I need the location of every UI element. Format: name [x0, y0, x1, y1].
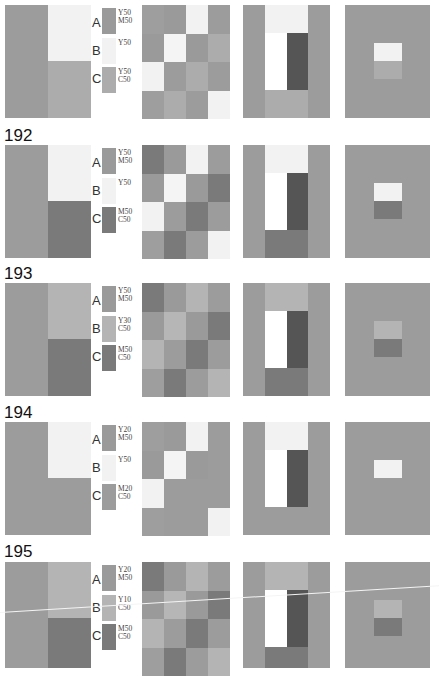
u-top	[265, 145, 308, 173]
panel-number: 193	[4, 265, 32, 282]
checker-cell	[164, 91, 186, 120]
u-dark-column	[287, 590, 308, 647]
center-square-panel	[345, 5, 430, 118]
checker-cell	[142, 5, 164, 34]
left-block-top-right	[48, 5, 91, 61]
color-swatch	[102, 67, 116, 93]
color-swatch	[102, 8, 116, 34]
swatch-letter: B	[92, 600, 101, 615]
swatch-label: Y50	[118, 39, 131, 47]
swatch-letter: A	[92, 572, 101, 587]
checker-cell	[164, 369, 186, 398]
checker-cell	[186, 422, 208, 451]
center-top-square	[374, 321, 402, 339]
checker-cell	[208, 5, 230, 34]
swatch-letter: A	[92, 432, 101, 447]
color-swatch	[102, 624, 116, 650]
center-top-square	[374, 600, 402, 618]
swatch-letter: C	[92, 211, 101, 226]
color-swatch	[102, 484, 116, 510]
checker-cell	[208, 174, 230, 203]
center-square-panel	[345, 562, 430, 668]
checker-cell	[186, 91, 208, 120]
left-block-top-right	[48, 145, 91, 201]
checker-cell	[208, 648, 230, 676]
checker-cell	[142, 62, 164, 91]
u-bottom	[265, 368, 308, 396]
left-block-bottom-right	[48, 618, 91, 668]
left-block-bottom-right	[48, 61, 91, 118]
swatch-label: Y50 M50	[118, 9, 132, 25]
left-block	[5, 5, 91, 118]
checker-cell	[164, 174, 186, 203]
swatch-label: Y50 M50	[118, 287, 132, 303]
color-swatch	[102, 595, 116, 621]
checker-cell	[164, 422, 186, 451]
swatch-letter: B	[92, 460, 101, 475]
color-swatch	[102, 286, 116, 312]
checker-cell	[208, 451, 230, 480]
center-top-square	[374, 43, 402, 61]
u-white-column	[265, 450, 287, 507]
swatch-letter: B	[92, 183, 101, 198]
checker-grid	[142, 422, 230, 535]
checker-cell	[186, 174, 208, 203]
swatch-label: M50 C50	[118, 208, 132, 224]
checker-cell	[186, 283, 208, 312]
color-swatch	[102, 207, 116, 233]
checker-cell	[164, 479, 186, 508]
left-block	[5, 562, 91, 668]
color-swatch	[102, 38, 116, 64]
swatch-letter: A	[92, 155, 101, 170]
checker-cell	[186, 62, 208, 91]
swatch-label: M50 C50	[118, 625, 132, 641]
left-block-top-right	[48, 422, 91, 478]
color-swatch	[102, 425, 116, 451]
checker-grid	[142, 283, 230, 396]
checker-cell	[142, 369, 164, 398]
u-top	[265, 422, 308, 450]
color-swatch	[102, 455, 116, 481]
checker-cell	[208, 340, 230, 369]
checker-cell	[142, 312, 164, 341]
checker-cell	[142, 591, 164, 620]
checker-cell	[208, 283, 230, 312]
checker-cell	[208, 591, 230, 620]
checker-cell	[164, 648, 186, 676]
swatch-label: Y20 M50	[118, 566, 132, 582]
checker-cell	[142, 479, 164, 508]
swatch-label: Y30 C50	[118, 317, 131, 333]
left-block-bottom-right	[48, 339, 91, 396]
checker-cell	[186, 479, 208, 508]
u-dark-column	[287, 33, 308, 90]
u-dark-column	[287, 173, 308, 230]
left-block-top-right	[48, 283, 91, 339]
u-white-column	[265, 590, 287, 647]
checker-cell	[142, 91, 164, 120]
u-bottom	[265, 90, 308, 118]
center-square-panel	[345, 145, 430, 258]
swatch-letter: C	[92, 71, 101, 86]
center-bottom-square	[374, 201, 402, 219]
swatch-letter: B	[92, 43, 101, 58]
color-swatch	[102, 565, 116, 591]
checker-cell	[164, 562, 186, 591]
checker-cell	[208, 508, 230, 537]
swatch-letter: C	[92, 349, 101, 364]
checker-grid	[142, 562, 230, 668]
checker-cell	[142, 451, 164, 480]
checker-cell	[142, 231, 164, 260]
checker-grid	[142, 5, 230, 118]
swatch-letter: A	[92, 15, 101, 30]
checker-cell	[186, 619, 208, 648]
panel-number: 194	[4, 404, 32, 421]
checker-cell	[164, 312, 186, 341]
checker-cell	[142, 174, 164, 203]
left-block-bottom-right	[48, 478, 91, 535]
checker-cell	[142, 202, 164, 231]
swatch-label: Y20 M50	[118, 426, 132, 442]
color-swatch	[102, 345, 116, 371]
checker-cell	[186, 34, 208, 63]
swatch-label: Y50 C50	[118, 68, 131, 84]
swatch-label: M50 C50	[118, 346, 132, 362]
